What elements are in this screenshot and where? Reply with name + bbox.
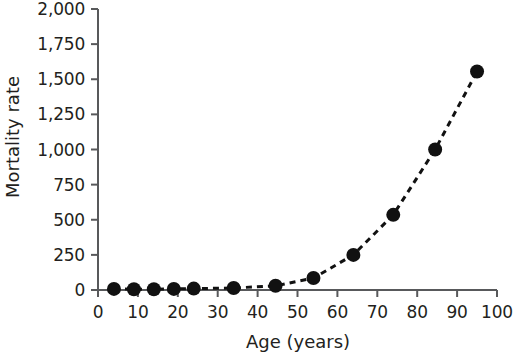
x-axis-tick-label: 30 — [207, 302, 228, 322]
chart-figure: 02505007501,0001,2501,5001,7502,000 0102… — [0, 0, 518, 359]
data-trend-line — [114, 72, 477, 290]
data-point — [167, 282, 181, 296]
data-point — [269, 279, 283, 293]
data-point — [127, 282, 141, 296]
x-axis-tick-label: 100 — [481, 302, 513, 322]
x-axis-tick-label: 70 — [367, 302, 388, 322]
x-axis-title: Age (years) — [98, 331, 498, 352]
data-point-markers — [107, 65, 484, 297]
y-axis-tick-label: 0 — [0, 280, 85, 300]
data-point — [306, 271, 320, 285]
y-axis-ticks — [91, 9, 98, 290]
data-point — [428, 143, 442, 157]
x-axis-tick-label: 50 — [287, 302, 308, 322]
data-point — [470, 65, 484, 79]
y-axis-title: Mortality rate — [2, 2, 30, 272]
x-axis-tick-label: 60 — [327, 302, 348, 322]
x-axis-tick-label: 10 — [127, 302, 148, 322]
data-point — [386, 208, 400, 222]
x-axis-tick-label: 0 — [93, 302, 104, 322]
data-point — [107, 282, 121, 296]
data-point — [227, 281, 241, 295]
x-axis-tick-label: 80 — [407, 302, 428, 322]
data-point — [346, 248, 360, 262]
data-point — [187, 282, 201, 296]
data-point — [147, 282, 161, 296]
x-axis-tick-label: 40 — [247, 302, 268, 322]
x-axis-tick-label: 20 — [167, 302, 188, 322]
x-axis-tick-label: 90 — [446, 302, 467, 322]
